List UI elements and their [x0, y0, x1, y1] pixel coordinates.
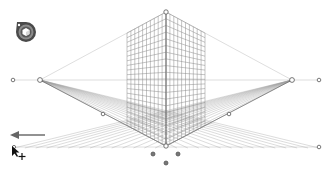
right-extent-handle[interactable]: [317, 78, 321, 82]
right-vanishing-point-handle[interactable]: [290, 78, 295, 83]
ground-origin-handle[interactable]: [164, 144, 168, 148]
move-cursor-icon: [11, 145, 27, 161]
origin-handle-2[interactable]: [176, 152, 180, 156]
left-plane-grid: [127, 12, 166, 146]
left-grid-extent-handle[interactable]: [101, 112, 105, 116]
left-vanishing-point-handle[interactable]: [38, 78, 43, 83]
origin-handle-3[interactable]: [164, 161, 168, 165]
ground-right-handle[interactable]: [317, 145, 321, 149]
top-vertex-handle[interactable]: [164, 10, 168, 14]
plane-switching-widget-icon[interactable]: [13, 19, 39, 45]
arrow-left-icon: [9, 130, 47, 140]
origin-handle-1[interactable]: [151, 152, 155, 156]
ground-plane-grid: [14, 80, 319, 148]
left-extent-handle[interactable]: [11, 78, 15, 82]
perspective-grid-canvas[interactable]: [0, 0, 333, 174]
right-grid-extent-handle[interactable]: [227, 112, 231, 116]
